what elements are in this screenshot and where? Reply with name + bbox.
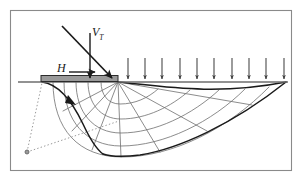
label-vertical-load: VT: [92, 26, 103, 41]
figure-border: [11, 11, 292, 171]
diagram-canvas: [0, 0, 303, 181]
label-h-base: H: [57, 61, 66, 75]
label-horizontal-load: H: [57, 62, 66, 74]
figure-root: VT H: [0, 0, 303, 181]
label-vt-subscript: T: [99, 33, 103, 42]
strip-footing-plate: [41, 76, 118, 82]
rotation-centre-point: [25, 150, 29, 154]
